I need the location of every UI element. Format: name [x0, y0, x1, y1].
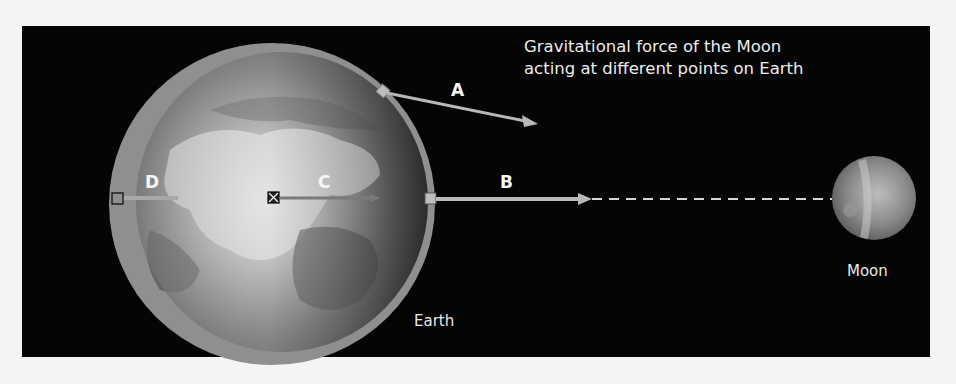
vector-d-label: D: [145, 172, 159, 192]
diagram-title: Gravitational force of the Moon acting a…: [524, 36, 804, 80]
moon: [832, 156, 916, 240]
earth-label: Earth: [414, 312, 454, 330]
vector-b-label: B: [500, 172, 513, 192]
vector-b: [425, 193, 592, 205]
moon-label: Moon: [847, 262, 888, 280]
diagram-graphics: [0, 0, 956, 384]
title-line-2: acting at different points on Earth: [524, 58, 804, 80]
vector-c-label: C: [318, 172, 330, 192]
title-line-1: Gravitational force of the Moon: [524, 36, 804, 58]
vector-a-label: A: [451, 80, 464, 100]
